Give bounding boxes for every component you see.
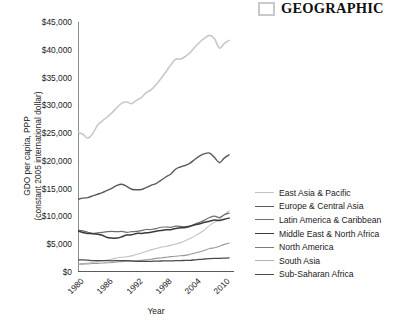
x-tick-label: 1998 (153, 276, 173, 296)
y-tick-label: $30,000 (42, 100, 72, 110)
legend-swatch-line-icon (255, 206, 274, 207)
legend-item[interactable]: North America (255, 240, 401, 254)
legend-item[interactable]: Middle East & North Africa (255, 227, 401, 241)
y-tick-label: $10,000 (42, 211, 72, 221)
y-axis-tick-labels: $0$5,000$10,000$15,000$20,000$25,000$30,… (0, 22, 72, 272)
legend-swatch-line-icon (255, 219, 274, 220)
brand-logo: GEOGRAPHIC (258, 0, 384, 17)
legend-item-label: Europe & Central Asia (279, 201, 364, 211)
legend-item-label: Middle East & North Africa (279, 229, 379, 239)
x-axis-tick-labels: 198019861992199820042010 (78, 272, 238, 306)
legend-item-label: Latin America & Caribbean (279, 215, 381, 225)
y-tick-label: $15,000 (42, 184, 72, 194)
legend-swatch-line-icon (255, 192, 274, 193)
y-tick-label: $25,000 (42, 128, 72, 138)
square-outline-icon (258, 2, 275, 16)
legend-item[interactable]: East Asia & Pacific (255, 186, 401, 200)
legend-item-label: North America (279, 242, 333, 252)
legend-swatch-line-icon (255, 233, 274, 234)
legend-item-label: Sub-Saharan Africa (279, 269, 354, 279)
legend-item[interactable]: South Asia (255, 254, 401, 268)
legend-item[interactable]: Sub-Saharan Africa (255, 268, 401, 282)
chart-page: GEOGRAPHIC GDO per capita, PPP (constant… (0, 0, 401, 321)
x-tick-label: 2010 (212, 276, 232, 296)
legend-item-label: South Asia (279, 256, 320, 266)
legend-swatch-line-icon (255, 274, 274, 275)
series-line (78, 213, 229, 233)
legend-item[interactable]: Latin America & Caribbean (255, 213, 401, 227)
legend-item[interactable]: Europe & Central Asia (255, 200, 401, 214)
legend-swatch-line-icon (255, 260, 274, 261)
series-line (78, 153, 229, 199)
x-axis-title: Year (78, 306, 234, 316)
y-tick-label: $35,000 (42, 73, 72, 83)
y-tick-label: $20,000 (42, 156, 72, 166)
y-tick-label: $45,000 (42, 17, 72, 27)
line-chart-svg (78, 22, 234, 272)
x-tick-label: 2004 (182, 276, 202, 296)
y-tick-label: $5,000 (46, 239, 72, 249)
brand-wordmark: GEOGRAPHIC (281, 0, 384, 17)
chart-legend: East Asia & PacificEurope & Central Asia… (255, 186, 401, 281)
legend-swatch-line-icon (255, 247, 274, 248)
series-line (78, 35, 229, 138)
x-tick-label: 1980 (65, 276, 85, 296)
legend-item-label: East Asia & Pacific (279, 188, 351, 198)
x-tick-label: 1992 (124, 276, 144, 296)
y-tick-label: $40,000 (42, 45, 72, 55)
x-tick-label: 1986 (95, 276, 115, 296)
y-tick-label: $0 (63, 267, 72, 277)
plot-area (78, 22, 234, 272)
